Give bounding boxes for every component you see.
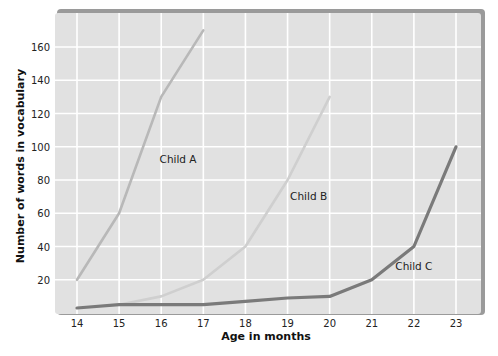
x-tick-label: 23 xyxy=(450,318,463,329)
x-tick-label: 21 xyxy=(365,318,378,329)
x-tick-label: 16 xyxy=(155,318,168,329)
x-axis-label: Age in months xyxy=(221,330,311,343)
y-tick-label: 80 xyxy=(37,175,50,186)
y-tick-label: 140 xyxy=(31,75,50,86)
x-tick-label: 19 xyxy=(281,318,294,329)
y-axis-ticks: 20406080100120140160 xyxy=(31,42,50,286)
y-tick-label: 120 xyxy=(31,109,50,120)
x-tick-label: 17 xyxy=(197,318,210,329)
y-tick-label: 20 xyxy=(37,275,50,286)
y-tick-label: 40 xyxy=(37,242,50,253)
y-tick-label: 60 xyxy=(37,208,50,219)
y-tick-label: 160 xyxy=(31,42,50,53)
series-label-child-a: Child A xyxy=(160,153,198,165)
y-tick-label: 100 xyxy=(31,142,50,153)
series-label-child-b: Child B xyxy=(290,190,327,202)
x-axis-ticks: 14151617181920212223 xyxy=(71,318,463,329)
series-label-child-c: Child C xyxy=(395,260,432,272)
x-tick-label: 14 xyxy=(71,318,84,329)
x-tick-label: 18 xyxy=(239,318,252,329)
x-tick-label: 20 xyxy=(323,318,336,329)
x-tick-label: 22 xyxy=(408,318,421,329)
vocabulary-line-chart: Child AChild BChild C 204060801001201401… xyxy=(0,0,498,356)
x-tick-label: 15 xyxy=(113,318,126,329)
y-axis-label: Number of words in vocabulary xyxy=(14,69,27,263)
